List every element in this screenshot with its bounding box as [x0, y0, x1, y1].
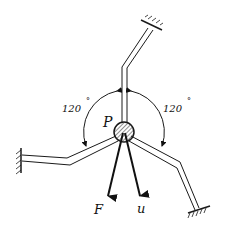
- angle-arc-right: [131, 91, 164, 146]
- right-bar: [129, 136, 199, 210]
- left-wall-support: [16, 148, 21, 174]
- label-f: F: [93, 202, 104, 217]
- angle-degree-left: °: [86, 96, 90, 105]
- left-bar: [22, 136, 118, 165]
- angle-label-right: 120: [163, 103, 183, 114]
- angle-label-left: 120: [62, 103, 82, 114]
- top-wall-support: [141, 15, 163, 30]
- label-p: P: [102, 114, 113, 130]
- label-u: u: [137, 201, 145, 216]
- angle-degree-right: °: [187, 96, 191, 105]
- diagram-canvas: P F u 120 ° 120 °: [0, 0, 227, 227]
- top-bar: [122, 28, 153, 123]
- hub-point-p: [114, 122, 134, 142]
